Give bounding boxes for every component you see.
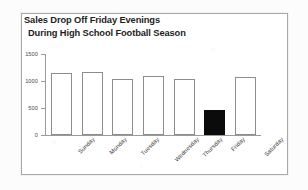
x-axis-label-thursday: Thursday	[202, 136, 224, 158]
chart-title-line-2: During High School Football Season	[24, 27, 254, 40]
y-axis-tick-label: 500	[12, 105, 38, 111]
bar-sunday[interactable]	[51, 73, 72, 135]
bar-wednesday[interactable]	[143, 76, 164, 135]
x-axis-label-tuesday: Tuesday	[140, 136, 161, 157]
x-axis-labels: SundayMondayTuesdayWednesdayThursdayFrid…	[45, 136, 261, 176]
y-axis-tick-label: 1500	[12, 51, 38, 57]
y-axis-tick	[41, 54, 45, 55]
y-axis-tick-label: 0	[12, 132, 38, 138]
bar-tuesday[interactable]	[112, 79, 133, 135]
x-axis-label-monday: Monday	[108, 136, 127, 155]
x-axis-label-sunday: Sunday	[77, 136, 96, 155]
x-axis-label-friday: Friday	[230, 136, 246, 152]
y-axis-tick	[41, 108, 45, 109]
chart-title: Sales Drop Off Friday Evenings During Hi…	[24, 14, 254, 39]
bar-series	[46, 54, 261, 135]
bar-monday[interactable]	[82, 72, 103, 135]
x-axis-label-wednesday: Wednesday	[173, 136, 200, 163]
chart-page: Sales Drop Off Friday Evenings During Hi…	[0, 0, 308, 190]
bar-saturday[interactable]	[235, 77, 256, 135]
chart-title-line-1: Sales Drop Off Friday Evenings	[24, 14, 254, 27]
bar-thursday[interactable]	[174, 79, 195, 135]
y-axis-tick	[41, 81, 45, 82]
bar-friday[interactable]	[204, 110, 225, 135]
y-axis-tick-label: 1000	[12, 78, 38, 84]
